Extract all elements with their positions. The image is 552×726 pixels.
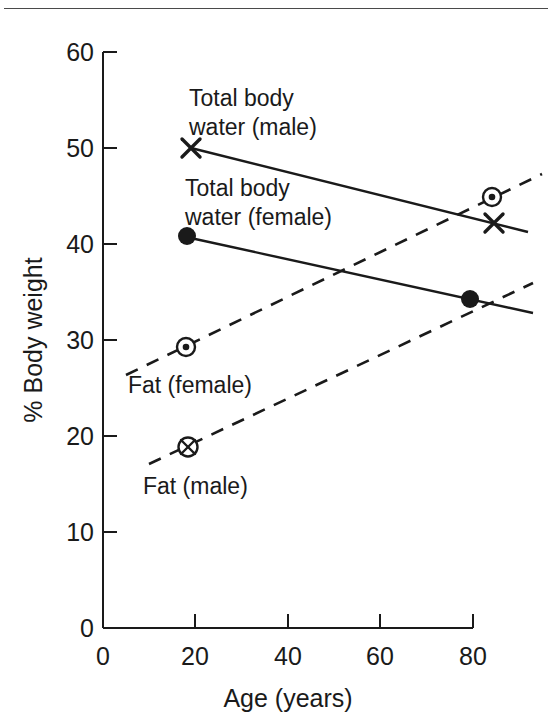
annotation-fat-female: Fat (female) xyxy=(128,372,252,398)
x-tick-label-40: 40 xyxy=(274,642,302,670)
marker-fat-female-young xyxy=(177,338,195,356)
annotation-tbw-male-line2: water (male) xyxy=(188,114,317,140)
y-tick-label-20: 20 xyxy=(66,422,94,450)
y-tick-label-10: 10 xyxy=(66,518,94,546)
x-tick-label-20: 20 xyxy=(181,642,209,670)
marker-tbw-male-young xyxy=(182,139,200,157)
annotation-tbw-female-line2: water (female) xyxy=(184,204,332,230)
y-tick-label-60: 60 xyxy=(66,38,94,66)
x-axis-ticks xyxy=(103,614,473,628)
annotation-fat-male: Fat (male) xyxy=(143,473,248,499)
y-axis-tick-labels: 60 50 40 30 20 10 0 xyxy=(66,38,94,642)
x-tick-label-80: 80 xyxy=(459,642,487,670)
marker-fat-male-young xyxy=(179,438,198,457)
y-tick-label-50: 50 xyxy=(66,134,94,162)
annotation-tbw-female: Total body water (female) xyxy=(184,175,332,230)
annotation-tbw-male-line1: Total body xyxy=(189,85,294,111)
y-axis-title: % Body weight xyxy=(19,257,47,422)
annotation-tbw-male: Total body water (male) xyxy=(188,85,317,140)
x-axis-tick-labels: 0 20 40 60 80 xyxy=(96,642,487,670)
y-tick-label-0: 0 xyxy=(80,614,94,642)
x-tick-label-0: 0 xyxy=(96,642,110,670)
marker-fat-female-old xyxy=(483,188,501,206)
figure-container: 60 50 40 30 20 10 0 0 20 40 60 80 Age (y… xyxy=(0,0,552,726)
x-tick-label-60: 60 xyxy=(366,642,394,670)
series-line-tbw-female xyxy=(186,237,533,313)
x-axis-title: Age (years) xyxy=(223,684,352,712)
y-axis-ticks xyxy=(103,52,117,628)
annotation-tbw-female-line1: Total body xyxy=(185,175,290,201)
y-tick-label-40: 40 xyxy=(66,230,94,258)
marker-tbw-female-old xyxy=(461,290,479,308)
chart-canvas: 60 50 40 30 20 10 0 0 20 40 60 80 Age (y… xyxy=(0,0,552,726)
y-tick-label-30: 30 xyxy=(66,326,94,354)
